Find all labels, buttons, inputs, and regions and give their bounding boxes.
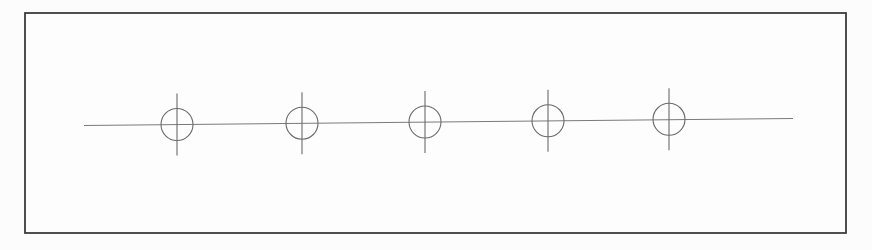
scanned-drawing-page <box>0 0 872 250</box>
plate-hole-pattern-drawing <box>0 0 872 250</box>
plate-outline <box>25 13 846 233</box>
